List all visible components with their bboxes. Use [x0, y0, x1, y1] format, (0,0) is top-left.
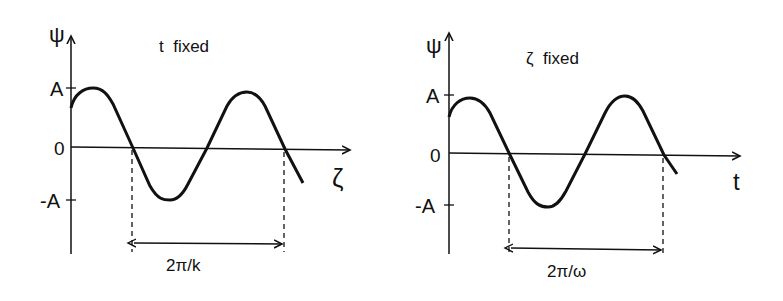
x-axis: [449, 153, 740, 156]
period-arrow: [134, 243, 282, 244]
tick-label-a: A: [426, 85, 440, 107]
wave-diagram: ψ t fixed A 0 -A ζ 2π/k ψ ζ fixed A 0 -A…: [0, 0, 783, 301]
period-label: 2π/k: [166, 256, 201, 275]
x-axis: [71, 147, 350, 150]
tick-label-zero: 0: [54, 138, 65, 159]
left-panel: [66, 36, 350, 254]
y-axis-label: ψ: [49, 22, 65, 47]
x-axis-label: ζ: [332, 163, 343, 193]
right-panel: [444, 33, 740, 256]
wave-curve: [71, 88, 303, 200]
tick-label-neg-a: -A: [415, 195, 436, 217]
period-label: 2π/ω: [547, 262, 586, 281]
tick-label-zero: 0: [430, 145, 441, 166]
tick-label-a: A: [50, 78, 64, 100]
wave-curve: [449, 96, 677, 207]
tick-label-neg-a: -A: [40, 190, 61, 212]
y-axis-label: ψ: [426, 33, 442, 58]
period-arrow: [511, 248, 661, 250]
panel-title: t fixed: [159, 37, 209, 56]
x-axis-label: t: [733, 168, 740, 195]
panel-title: ζ fixed: [526, 49, 579, 68]
